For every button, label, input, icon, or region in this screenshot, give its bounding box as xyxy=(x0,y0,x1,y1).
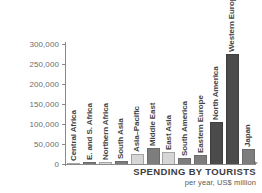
plot-area: 300,000250,000200,000150,000100,00050,00… xyxy=(66,44,256,164)
bar[interactable] xyxy=(210,122,223,164)
bar-group: South America xyxy=(177,44,193,164)
tourist-spending-bar-chart: 300,000250,000200,000150,000100,00050,00… xyxy=(0,0,262,193)
bar-category-label: Asia–Pacific xyxy=(132,106,141,152)
bar-category-label: Central Africa xyxy=(69,110,78,161)
chart-subtitle: per year, US$ million xyxy=(133,179,256,188)
bar-group: Central Africa xyxy=(66,44,82,164)
bar-group: E. and S. Africa xyxy=(82,44,98,164)
y-axis-tick-label: 200,000 xyxy=(29,80,59,89)
bar-group: Eastern Europe xyxy=(193,44,209,164)
bar[interactable] xyxy=(83,162,96,164)
y-axis-tick-label: 300,000 xyxy=(29,40,59,49)
bar[interactable] xyxy=(194,155,207,164)
bar[interactable] xyxy=(226,54,239,164)
y-axis-tick-label: 250,000 xyxy=(29,60,59,69)
bar[interactable] xyxy=(67,163,80,164)
bar[interactable] xyxy=(115,161,128,164)
bar-group: Asia–Pacific xyxy=(129,44,145,164)
bar-category-label: Middle East xyxy=(148,103,157,146)
y-axis-tick-label: 50,000 xyxy=(34,140,59,149)
bar-series: Central AfricaE. and S. AfricaNorthern A… xyxy=(66,44,256,164)
bar-category-label: East Asia xyxy=(164,116,173,151)
bar[interactable] xyxy=(242,149,255,164)
bar[interactable] xyxy=(99,162,112,164)
bar[interactable] xyxy=(131,154,144,164)
y-axis-tick-label: 150,000 xyxy=(29,100,59,109)
bar-category-label: Eastern Europe xyxy=(196,95,205,153)
bar-group: East Asia xyxy=(161,44,177,164)
chart-title-block: SPENDING BY TOURISTS per year, US$ milli… xyxy=(133,167,256,188)
bar[interactable] xyxy=(147,148,160,164)
bar-category-label: Northern Africa xyxy=(101,103,110,160)
bar[interactable] xyxy=(178,158,191,164)
bar-group: Japan xyxy=(240,44,256,164)
bar-category-label: South Asia xyxy=(116,118,125,159)
chart-title: SPENDING BY TOURISTS xyxy=(133,167,256,178)
bar-category-label: South America xyxy=(180,101,189,156)
bar-category-label: Japan xyxy=(243,125,252,148)
bar-category-label: North America xyxy=(211,66,220,120)
bar-group: Northern Africa xyxy=(98,44,114,164)
y-axis-tick-label: 100,000 xyxy=(29,120,59,129)
bar-group: South Asia xyxy=(113,44,129,164)
x-axis-baseline xyxy=(65,164,256,165)
bar-group: North America xyxy=(208,44,224,164)
bar-category-label: Western Europe xyxy=(227,0,236,52)
y-axis-tick-label: 0 xyxy=(54,160,59,169)
bar-category-label: E. and S. Africa xyxy=(85,103,94,160)
bar-group: Western Europe xyxy=(224,44,240,164)
y-axis-tick xyxy=(62,164,66,165)
bar[interactable] xyxy=(162,152,175,164)
bar-group: Middle East xyxy=(145,44,161,164)
